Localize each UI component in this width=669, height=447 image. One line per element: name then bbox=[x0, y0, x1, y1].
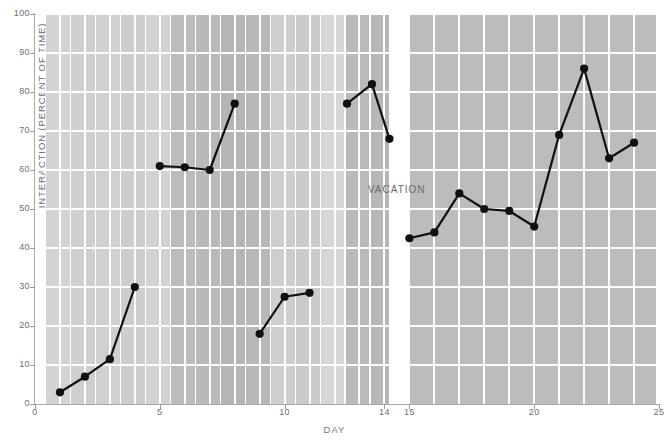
y-tick-mark bbox=[30, 14, 35, 15]
data-point bbox=[343, 100, 351, 108]
vacation-annotation: VACATION bbox=[368, 184, 426, 195]
y-tick-mark bbox=[30, 131, 35, 132]
data-point bbox=[385, 135, 393, 143]
series-line bbox=[347, 84, 389, 139]
y-tick-mark bbox=[30, 209, 35, 210]
y-tick-label: 70 bbox=[4, 125, 30, 135]
data-point bbox=[156, 162, 164, 170]
x-tick-mark bbox=[384, 404, 385, 409]
data-point bbox=[480, 205, 488, 213]
x-tick-mark bbox=[285, 404, 286, 409]
data-point bbox=[281, 293, 289, 301]
data-point bbox=[256, 330, 264, 338]
data-point bbox=[605, 154, 613, 162]
y-tick-mark bbox=[30, 365, 35, 366]
x-tick-mark bbox=[409, 404, 410, 409]
data-point bbox=[580, 65, 588, 73]
y-tick-label: 40 bbox=[4, 242, 30, 252]
y-tick-label: 60 bbox=[4, 164, 30, 174]
x-tick-mark bbox=[35, 404, 36, 409]
x-tick-mark bbox=[160, 404, 161, 409]
data-point bbox=[106, 355, 114, 363]
y-tick-mark bbox=[30, 92, 35, 93]
data-point bbox=[368, 80, 376, 88]
x-axis-line bbox=[34, 404, 660, 405]
series-line bbox=[60, 287, 135, 392]
y-tick-label: 90 bbox=[4, 47, 30, 57]
data-point bbox=[430, 228, 438, 236]
data-point bbox=[181, 163, 189, 171]
y-tick-label: 100 bbox=[4, 8, 30, 18]
y-tick-mark bbox=[30, 287, 35, 288]
y-tick-label: 80 bbox=[4, 86, 30, 96]
y-tick-mark bbox=[30, 53, 35, 54]
data-point bbox=[131, 283, 139, 291]
data-point bbox=[630, 139, 638, 147]
y-tick-label: 50 bbox=[4, 203, 30, 213]
data-point bbox=[206, 166, 214, 174]
plot-area bbox=[35, 14, 659, 404]
y-tick-mark bbox=[30, 170, 35, 171]
y-tick-mark bbox=[30, 248, 35, 249]
data-point bbox=[555, 131, 563, 139]
data-point bbox=[56, 388, 64, 396]
data-point bbox=[81, 373, 89, 381]
y-tick-label: 20 bbox=[4, 320, 30, 330]
series-line bbox=[160, 104, 235, 170]
data-point bbox=[305, 289, 313, 297]
figure: INTERACTION (PERCENT OF TIME) DAY 010203… bbox=[0, 0, 669, 447]
x-tick-mark bbox=[534, 404, 535, 409]
x-tick-mark bbox=[659, 404, 660, 409]
data-point bbox=[530, 222, 538, 230]
y-tick-mark bbox=[30, 326, 35, 327]
y-tick-label: 10 bbox=[4, 359, 30, 369]
data-point bbox=[405, 234, 413, 242]
footnote bbox=[2, 440, 662, 447]
series-line bbox=[409, 69, 634, 239]
y-tick-label: 30 bbox=[4, 281, 30, 291]
data-point bbox=[505, 207, 513, 215]
data-point bbox=[455, 189, 463, 197]
x-tick-label: 25 bbox=[647, 407, 669, 417]
data-point bbox=[231, 100, 239, 108]
x-axis-label: DAY bbox=[0, 424, 669, 435]
data-series-layer bbox=[35, 14, 659, 404]
